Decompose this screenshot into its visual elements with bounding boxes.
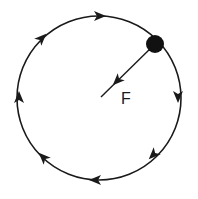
moving-object-ball	[146, 35, 164, 53]
force-label: F	[121, 91, 131, 107]
diagram-canvas	[0, 0, 198, 199]
direction-arrow-left-icon	[14, 91, 24, 103]
direction-arrow-upper-left-icon	[34, 30, 50, 46]
circular-motion-diagram: F	[0, 0, 198, 199]
